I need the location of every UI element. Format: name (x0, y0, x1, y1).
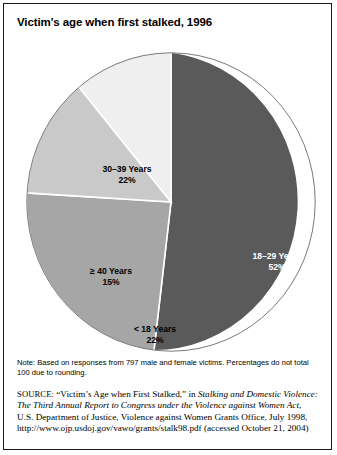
pie-label-18-29: 18–29 Years 52% (222, 251, 332, 273)
pie-slice-18-29[interactable] (154, 52, 299, 351)
figure-frame: Victim's age when first stalked, 1996 18… (3, 3, 332, 450)
source-kicker: SOURCE: (17, 389, 54, 399)
pie-label-40-and-over-text: ≥ 40 Years (90, 266, 132, 276)
pie-label-30-39: 30–39 Years 22% (72, 164, 182, 186)
figure-source: SOURCE: “Victim’s Age when First Stalked… (17, 389, 319, 435)
pie-label-18-29-value: 52% (222, 262, 332, 273)
figure-note: Note: Based on responses from 797 male a… (17, 358, 317, 378)
pie-label-40-and-over-value: 15% (56, 277, 166, 288)
pie-label-under-18-value: 22% (100, 335, 210, 346)
page-title: Victim's age when first stalked, 1996 (17, 16, 212, 28)
pie-svg (26, 52, 316, 352)
pie-chart: 18–29 Years 52% 30–39 Years 22% ≥ 40 Yea… (4, 44, 331, 354)
pie-label-40-and-over: ≥ 40 Years 15% (56, 266, 166, 288)
source-part-1: “Victim’s Age when First Stalked,” in (54, 389, 198, 399)
pie-label-30-39-value: 22% (72, 175, 182, 186)
pie-label-18-29-text: 18–29 Years (252, 251, 301, 261)
pie-label-30-39-text: 30–39 Years (102, 164, 151, 174)
pie-label-under-18-text: < 18 Years (134, 324, 176, 334)
pie-graphic: 18–29 Years 52% 30–39 Years 22% ≥ 40 Yea… (26, 52, 316, 352)
pie-label-under-18: < 18 Years 22% (100, 324, 210, 346)
